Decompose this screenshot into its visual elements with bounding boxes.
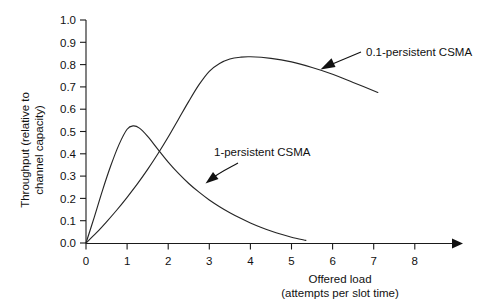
x-tick-label: 0 [83, 255, 89, 267]
x-axis-title: Offered load (attempts per slot time) [281, 273, 399, 299]
annotation-0-1-persistent: 0.1-persistent CSMA [321, 46, 473, 70]
x-axis-tick-labels: 0 1 2 3 4 5 6 7 8 [83, 255, 418, 267]
x-axis: 0 1 2 3 4 5 6 7 8 Offered load (attempts… [83, 239, 463, 300]
y-axis-ticks [80, 20, 86, 243]
y-tick-label: 0.1 [60, 215, 76, 227]
series-path-1 [86, 126, 306, 243]
y-axis-title-line1: Throughput (relative to [19, 92, 31, 208]
y-axis-title-line2: channel capacity) [33, 105, 45, 195]
y-tick-label: 0.0 [60, 237, 76, 249]
x-tick-label: 2 [165, 255, 171, 267]
y-tick-label: 1.0 [60, 14, 76, 26]
x-axis-arrow-icon [452, 239, 463, 249]
y-tick-label: 0.9 [60, 37, 76, 49]
x-axis-ticks [86, 244, 415, 250]
x-tick-label: 1 [124, 255, 130, 267]
y-axis: 1.0 0.9 0.8 0.7 0.6 0.5 0.4 0.3 0.2 0.1 … [19, 14, 86, 249]
x-tick-label: 6 [329, 255, 335, 267]
x-tick-label: 4 [247, 255, 254, 267]
y-tick-label: 0.4 [60, 148, 77, 160]
series-label-0: 0.1-persistent CSMA [366, 46, 472, 58]
chart-container: 1.0 0.9 0.8 0.7 0.6 0.5 0.4 0.3 0.2 0.1 … [0, 0, 481, 308]
y-tick-label: 0.6 [60, 103, 76, 115]
throughput-vs-offered-load-chart: 1.0 0.9 0.8 0.7 0.6 0.5 0.4 0.3 0.2 0.1 … [0, 0, 481, 308]
annotation-arrow-icon [321, 58, 336, 69]
annotation-leader-line [330, 52, 361, 65]
annotation-arrow-icon [206, 172, 219, 184]
x-axis-title-line1: Offered load [308, 273, 371, 285]
y-tick-label: 0.7 [60, 81, 76, 93]
series-label-1: 1-persistent CSMA [214, 146, 311, 158]
y-tick-label: 0.5 [60, 126, 76, 138]
annotation-1-persistent: 1-persistent CSMA [206, 146, 311, 184]
y-tick-label: 0.3 [60, 170, 76, 182]
x-tick-label: 8 [412, 255, 418, 267]
x-tick-label: 3 [206, 255, 212, 267]
y-axis-title: Throughput (relative to channel capacity… [19, 92, 45, 208]
y-axis-tick-labels: 1.0 0.9 0.8 0.7 0.6 0.5 0.4 0.3 0.2 0.1 … [60, 14, 77, 249]
x-axis-title-line2: (attempts per slot time) [281, 287, 399, 299]
y-tick-label: 0.2 [60, 193, 76, 205]
x-tick-label: 5 [288, 255, 294, 267]
y-tick-label: 0.8 [60, 59, 76, 71]
x-tick-label: 7 [370, 255, 376, 267]
